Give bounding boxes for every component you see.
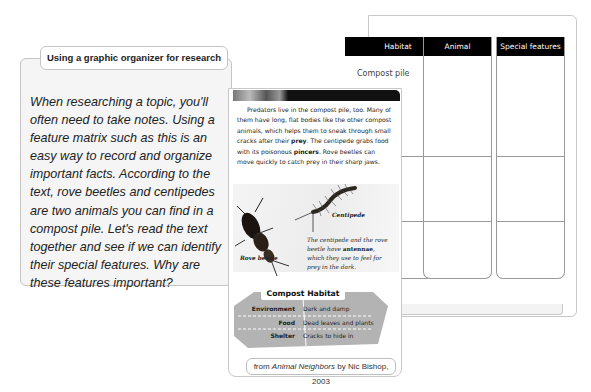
citation-prefix: from (254, 362, 272, 371)
intro-panel-title: Using a graphic organizer for research (40, 46, 228, 70)
compost-habitat-title: Compost Habitat (261, 287, 345, 300)
column-header-animal: Animal (424, 37, 491, 56)
keyword-antennae: antennae (343, 246, 373, 252)
row-divider (424, 221, 491, 222)
matrix-cell-habitat-1[interactable]: Compost pile (357, 69, 410, 78)
keyword-prey: prey (291, 137, 306, 144)
citation-book-title: Animal Neighbors (272, 362, 335, 371)
row-divider (497, 221, 564, 222)
label-rove-beetle: Rove beetle (240, 255, 278, 261)
habitat-row-value: Cracks to hide in (303, 332, 353, 339)
habitat-row-label: Food (243, 319, 295, 326)
intro-panel-body: When researching a topic, you'll often n… (30, 93, 230, 292)
row-divider (497, 156, 564, 157)
matrix-column-special-features: Special features (496, 37, 565, 279)
centipede-image (295, 184, 355, 232)
habitat-row-label: Environment (243, 305, 295, 312)
keyword-pincers: pincers (294, 148, 319, 155)
habitat-row-value: Dead leaves and plants (303, 319, 374, 326)
rove-beetle-image (235, 198, 289, 276)
label-centipede: Centipede (332, 212, 365, 218)
source-citation: from Animal Neighbors by Nic Bishop, 200… (246, 358, 396, 375)
column-header-special-features: Special features (497, 37, 564, 56)
habitat-row-label: Shelter (243, 332, 295, 339)
book-page-header-texture (233, 90, 400, 101)
matrix-column-animal: Animal (423, 37, 492, 279)
photo-caption: The centipede and the rove beetle have a… (307, 236, 393, 272)
feature-matrix-sheet-edge (380, 304, 563, 315)
habitat-row-value: Dark and damp (303, 305, 349, 312)
book-page-paragraph: Predators live in the compost pile, too.… (237, 105, 393, 167)
row-divider (424, 156, 491, 157)
